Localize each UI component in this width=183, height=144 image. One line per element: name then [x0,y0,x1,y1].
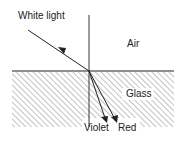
air-label: Air [127,38,140,49]
incident-ray [28,30,89,71]
violet-label: Violet [84,122,109,133]
white-light-label: White light [18,10,65,21]
glass-label: Glass [126,88,152,99]
red-label: Red [118,122,136,133]
refraction-diagram: White light Air Glass Violet Red [0,0,183,144]
